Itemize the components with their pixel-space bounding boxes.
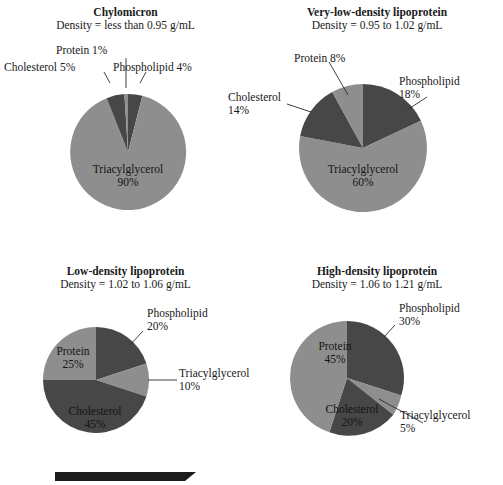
label-chylomicron-triacylglycerol-line2: 90% xyxy=(117,176,138,188)
label-ldl-triacylglycerol-line1: Triacylglycerol xyxy=(179,367,249,379)
label-ldl-protein: Protein 25% xyxy=(40,345,106,371)
label-vldl-protein: Protein 8% xyxy=(294,52,345,65)
leader-line-phospholipid xyxy=(384,325,395,337)
label-hdl-protein-line2: 45% xyxy=(324,353,345,365)
label-hdl-cholesterol-line1: Cholesterol xyxy=(325,403,378,415)
label-ldl-phospholipid: Phospholipid 20% xyxy=(147,307,208,333)
leader-line-cholesterol xyxy=(287,104,311,112)
pie-chart-chylomicron xyxy=(0,0,251,242)
label-ldl-cholesterol-line1: Cholesterol xyxy=(68,405,121,417)
label-vldl-phospholipid-line1: Phospholipid xyxy=(399,75,460,87)
label-vldl-cholesterol-line2: 14% xyxy=(228,104,249,116)
label-ldl-triacylglycerol: Triacylglycerol 10% xyxy=(179,367,249,393)
pie-chart-hdl xyxy=(251,255,503,485)
label-hdl-phospholipid-line2: 30% xyxy=(399,315,420,327)
label-ldl-cholesterol: Cholesterol 45% xyxy=(50,405,140,431)
leader-line-cholesterol xyxy=(104,72,110,83)
label-hdl-cholesterol: Cholesterol 20% xyxy=(307,403,397,429)
label-chylomicron-cholesterol: Cholesterol 5% xyxy=(4,61,75,74)
pie-chart-vldl xyxy=(251,0,503,242)
label-hdl-triacylglycerol-line1: Triacylglycerol xyxy=(400,409,470,421)
label-hdl-triacylglycerol-line2: 5% xyxy=(400,422,415,434)
label-hdl-phospholipid-line1: Phospholipid xyxy=(399,302,460,314)
label-vldl-cholesterol: Cholesterol 14% xyxy=(228,91,281,117)
label-vldl-triacylglycerol-line2: 60% xyxy=(352,176,373,188)
label-hdl-cholesterol-line2: 20% xyxy=(341,416,362,428)
label-hdl-triacylglycerol: Triacylglycerol 5% xyxy=(400,409,470,435)
label-ldl-phospholipid-line2: 20% xyxy=(147,320,168,332)
label-ldl-cholesterol-line2: 45% xyxy=(84,418,105,430)
label-chylomicron-phospholipid: Phospholipid 4% xyxy=(113,61,192,74)
label-vldl-cholesterol-line1: Cholesterol xyxy=(228,91,281,103)
label-vldl-phospholipid: Phospholipid 18% xyxy=(399,75,460,101)
label-chylomicron-triacylglycerol-line1: Triacylglycerol xyxy=(93,163,163,175)
label-hdl-phospholipid: Phospholipid 30% xyxy=(399,302,460,328)
label-ldl-phospholipid-line1: Phospholipid xyxy=(147,307,208,319)
label-vldl-triacylglycerol: Triacylglycerol 60% xyxy=(315,163,411,189)
label-hdl-protein: Protein 45% xyxy=(302,340,368,366)
label-ldl-protein-line2: 25% xyxy=(62,358,83,370)
label-ldl-protein-line1: Protein xyxy=(56,345,89,357)
leader-line-phospholipid xyxy=(130,331,143,345)
label-chylomicron-protein: Protein 1% xyxy=(56,44,107,57)
lipoprotein-composition-figure: Chylomicron Density = less than 0.95 g/m… xyxy=(0,0,503,485)
label-vldl-phospholipid-line2: 18% xyxy=(399,88,420,100)
pie-chylomicron-svg xyxy=(0,0,251,242)
pie-hdl-svg xyxy=(251,255,503,485)
label-vldl-triacylglycerol-line1: Triacylglycerol xyxy=(328,163,398,175)
bottom-banner-bar xyxy=(55,472,185,481)
label-ldl-triacylglycerol-line2: 10% xyxy=(179,380,200,392)
pie-vldl-svg xyxy=(251,0,503,242)
label-chylomicron-triacylglycerol: Triacylglycerol 90% xyxy=(80,163,176,189)
label-hdl-protein-line1: Protein xyxy=(318,340,351,352)
